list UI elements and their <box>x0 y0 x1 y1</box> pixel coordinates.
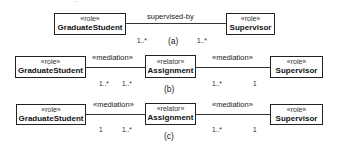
mediation-label-right-c: «mediation» <box>212 100 253 109</box>
multiplicity-left-2-c: 1..* <box>122 126 132 133</box>
mediation-label-left-c: «mediation» <box>93 100 134 109</box>
multiplicity-right-a: 1..* <box>197 37 207 44</box>
multiplicity-left-1-c: 1 <box>99 126 103 133</box>
stereotype-label: «role» <box>17 106 85 114</box>
multiplicity-right-1-c: 1..* <box>212 126 222 133</box>
stereotype-label: «role» <box>271 58 322 66</box>
multiplicity-right-1-b: 1..* <box>212 80 222 87</box>
class-supervisor-b: «role» Supervisor <box>270 56 323 78</box>
caption-c: (c) <box>164 131 174 141</box>
multiplicity-left-2-b: 1..* <box>122 80 132 87</box>
stereotype-label: «relator» <box>146 58 195 66</box>
caption-a: (a) <box>168 36 178 46</box>
mediation-line-left-c <box>86 114 145 115</box>
stereotype-label: «relator» <box>146 105 195 113</box>
stereotype-label: «role» <box>16 58 85 66</box>
class-assignment-c: «relator» Assignment <box>145 103 196 125</box>
class-name: GraduateStudent <box>16 66 85 76</box>
caption-b: (b) <box>164 84 174 94</box>
mediation-line-right-b <box>196 67 270 68</box>
multiplicity-right-2-c: 1 <box>253 126 257 133</box>
mediation-label-left-b: «mediation» <box>92 53 133 62</box>
association-label-a: supervised-by <box>147 12 194 21</box>
mediation-label-right-b: «mediation» <box>212 53 253 62</box>
class-assignment-b: «relator» Assignment <box>145 55 196 78</box>
class-name: Assignment <box>146 113 195 123</box>
mediation-line-left-b <box>86 67 145 68</box>
mediation-line-right-c <box>196 114 270 115</box>
association-line-a <box>126 23 226 24</box>
corner-mark: ˇˇ <box>75 0 78 5</box>
class-name: Supervisor <box>271 66 322 76</box>
class-name: GraduateStudent <box>17 114 85 124</box>
class-name: Assignment <box>146 66 195 76</box>
class-name: Supervisor <box>271 114 322 124</box>
stereotype-label: «role» <box>271 106 322 114</box>
class-graduate-student-c: «role» GraduateStudent <box>16 104 86 125</box>
class-name: Supervisor <box>227 23 274 33</box>
class-graduate-student-b: «role» GraduateStudent <box>15 56 86 78</box>
stereotype-label: «role» <box>55 15 125 23</box>
class-supervisor-c: «role» Supervisor <box>270 104 323 125</box>
stereotype-label: «role» <box>227 15 274 23</box>
class-graduate-student-a: «role» GraduateStudent <box>54 13 126 35</box>
class-supervisor-a: «role» Supervisor <box>226 13 275 35</box>
multiplicity-left-a: 1..* <box>137 37 147 44</box>
multiplicity-right-2-b: 1 <box>253 80 257 87</box>
class-name: GraduateStudent <box>55 23 125 33</box>
multiplicity-left-1-b: 1..* <box>99 80 109 87</box>
